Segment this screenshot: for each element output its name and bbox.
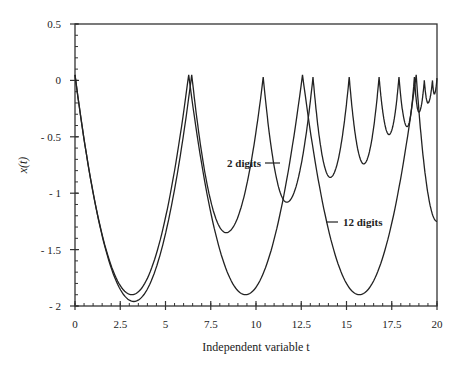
annotation-2-digits: 2 digits [227,157,262,169]
x-tick-label: 12.5 [292,318,312,330]
y-axis: 0.50- 0.5- 1- 1.5- 2 [41,18,79,312]
x-tick-label: 15 [341,318,353,330]
y-tick-label: - 0.5 [41,131,62,143]
x-tick-label: 5 [163,318,169,330]
y-tick-label: - 1 [49,187,61,199]
line-chart: 0.50- 0.5- 1- 1.5- 2 02.557.51012.51517.… [0,0,461,367]
annotations: 2 digits12 digits [227,157,383,228]
y-tick-label: 0 [56,74,62,86]
x-tick-label: 7.5 [204,318,218,330]
series-lines [75,75,437,302]
y-tick-label: - 1.5 [41,244,62,256]
series-line-2-digits [75,75,437,302]
x-tick-label: 20 [432,318,444,330]
annotation-12-digits: 12 digits [343,216,383,228]
y-tick-label: - 2 [49,300,61,312]
x-tick-label: 2.5 [113,318,127,330]
y-tick-label: 0.5 [47,18,61,30]
y-axis-label: x(t) [16,157,30,175]
x-tick-label: 17.5 [382,318,402,330]
x-axis-label: Independent variable t [202,340,310,354]
x-tick-label: 10 [251,318,263,330]
x-tick-label: 0 [72,318,78,330]
